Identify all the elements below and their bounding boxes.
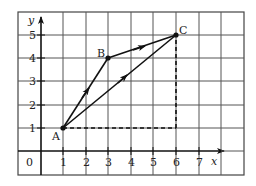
x-tick-2: 2 <box>83 156 90 169</box>
x-axis-label: x <box>211 155 218 168</box>
point-A <box>60 125 65 130</box>
label-B: B <box>97 47 105 60</box>
point-B <box>105 55 110 60</box>
y-tick-4: 4 <box>29 52 36 65</box>
point-C <box>173 32 178 37</box>
label-C: C <box>179 24 187 37</box>
label-A: A <box>51 130 61 143</box>
x-tick-4: 4 <box>128 156 135 169</box>
origin-label: 0 <box>26 156 33 169</box>
x-tick-3: 3 <box>105 156 112 169</box>
arrow-BC-icon <box>133 46 145 50</box>
y-tick-5: 5 <box>29 29 36 42</box>
coordinate-diagram: A B C y x 0 5 4 3 2 1 1 2 3 4 5 6 7 <box>0 0 256 186</box>
arrow-AC-icon <box>118 75 127 83</box>
y-tick-2: 2 <box>29 99 36 112</box>
y-axis-label: y <box>27 14 35 27</box>
x-tick-6: 6 <box>173 156 180 169</box>
y-tick-1: 1 <box>29 122 36 135</box>
y-tick-3: 3 <box>29 75 36 88</box>
x-tick-1: 1 <box>60 156 67 169</box>
axes <box>18 17 224 175</box>
x-tick-5: 5 <box>150 156 157 169</box>
x-tick-7: 7 <box>196 156 203 169</box>
